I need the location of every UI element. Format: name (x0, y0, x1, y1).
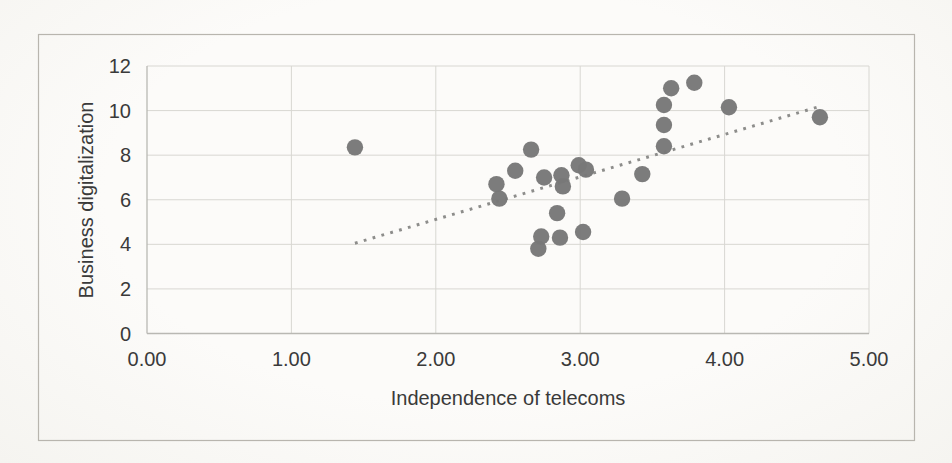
data-point (663, 80, 679, 96)
chart-border (39, 35, 915, 441)
data-point (656, 117, 672, 133)
x-axis-title: Independence of telecoms (391, 387, 626, 410)
data-point (555, 178, 571, 194)
y-axis-title: Business digitalization (75, 102, 98, 299)
x-tick-label: 2.00 (416, 348, 455, 370)
x-tick-label: 0.00 (128, 348, 167, 370)
data-point (523, 141, 539, 157)
x-tick-label: 3.00 (561, 348, 600, 370)
data-point (549, 205, 565, 221)
x-tick-label: 1.00 (272, 348, 311, 370)
data-point (721, 99, 737, 115)
data-point (812, 109, 828, 125)
data-point (536, 169, 552, 185)
data-point (552, 229, 568, 245)
data-point (507, 163, 523, 179)
x-tick-label: 5.00 (850, 348, 889, 370)
y-tick-label: 6 (120, 189, 131, 211)
scanned-page: 0.001.002.003.004.005.00024681012 Busine… (0, 0, 952, 463)
data-point (686, 75, 702, 91)
data-point (488, 176, 504, 192)
data-point (656, 138, 672, 154)
y-tick-label: 12 (109, 55, 131, 77)
data-point (491, 190, 507, 206)
data-point (656, 97, 672, 113)
data-point (575, 224, 591, 240)
x-tick-label: 4.00 (705, 348, 744, 370)
data-point (347, 139, 363, 155)
y-tick-label: 4 (120, 233, 131, 255)
data-point (614, 190, 630, 206)
y-tick-label: 0 (120, 323, 131, 345)
data-point (578, 161, 594, 177)
y-tick-label: 8 (120, 144, 131, 166)
y-tick-label: 10 (109, 100, 131, 122)
data-point (634, 166, 650, 182)
data-point (533, 228, 549, 244)
y-tick-label: 2 (120, 278, 131, 300)
